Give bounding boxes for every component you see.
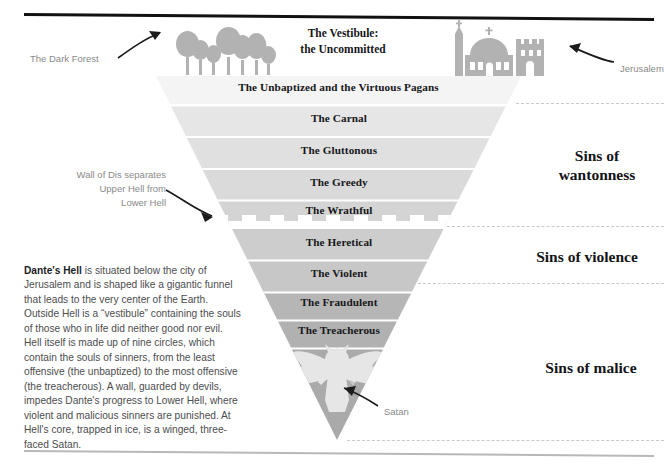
circle-label-gluttonous: The Gluttonous bbox=[180, 145, 498, 156]
group-label-wantonness-line1: Sins of bbox=[527, 146, 667, 165]
vestibule-heading-line1: The Vestibule: bbox=[268, 26, 418, 42]
circle-label-treacherous: The Treacherous bbox=[256, 325, 422, 336]
circle-label-wrathful: The Wrathful bbox=[204, 205, 474, 216]
circle-label-fraudulent: The Fraudulent bbox=[246, 297, 432, 308]
group-label-wantonness: Sins of wantonness bbox=[527, 146, 667, 185]
group-label-malice: Sins of malice bbox=[512, 358, 670, 377]
description-body: is situated below the city of Jerusalem … bbox=[24, 265, 241, 450]
group-label-wantonness-line2: wantonness bbox=[527, 165, 667, 184]
description-paragraph: Dante's Hell is situated below the city … bbox=[24, 264, 242, 452]
group-label-violence: Sins of violence bbox=[505, 247, 669, 266]
annotation-dark-forest: The Dark Forest bbox=[30, 52, 120, 66]
diagram-canvas: The Unbaptized and the Virtuous Pagans T… bbox=[0, 0, 672, 467]
vestibule-heading-line2: the Uncommitted bbox=[268, 42, 418, 58]
circle-label-violent: The Violent bbox=[232, 268, 446, 279]
annotation-wall-of-dis: Wall of Dis separates Upper Hell from Lo… bbox=[62, 168, 166, 209]
jerusalem-skyline-icon bbox=[455, 20, 544, 76]
circle-label-greedy: The Greedy bbox=[192, 177, 486, 188]
forest-trees-icon bbox=[176, 27, 276, 75]
wall-of-dis-crenellation bbox=[140, 215, 540, 228]
circle-label-unbaptized: The Unbaptized and the Virtuous Pagans bbox=[156, 82, 521, 93]
vestibule-heading: The Vestibule: the Uncommitted bbox=[268, 26, 418, 57]
annotation-jerusalem: Jerusalem bbox=[620, 62, 670, 76]
description-lead-in: Dante's Hell bbox=[24, 265, 82, 276]
annotation-satan: Satan bbox=[384, 405, 434, 419]
circle-label-carnal: The Carnal bbox=[168, 113, 510, 124]
circle-label-heretical: The Heretical bbox=[218, 237, 460, 248]
